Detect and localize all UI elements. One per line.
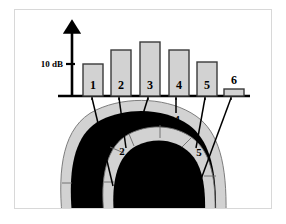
segment-label-3: 3 [138,114,144,126]
bar-series [83,42,244,96]
bar-label-4: 4 [176,78,182,92]
bar-label-6: 6 [231,73,237,87]
y-axis-label: 10 dB [41,59,63,69]
segment-label-4: 4 [174,113,180,125]
bar-label-5: 5 [204,78,210,92]
bar-label-3: 3 [147,78,153,92]
segment-label-1: 1 [115,183,121,195]
bar-label-2: 2 [118,78,124,92]
segment-label-5: 5 [196,146,202,158]
bar-6[interactable] [224,89,244,96]
bar-label-1: 1 [90,78,96,92]
figure-canvas: 1 2 3 4 5 6 [0,0,286,224]
segment-label-2: 2 [119,145,125,157]
figure-container: 1 2 3 4 5 6 [0,0,286,224]
